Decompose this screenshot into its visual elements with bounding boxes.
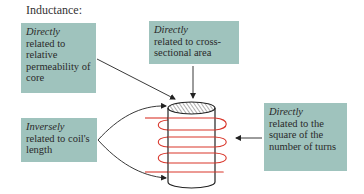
coil-winding [145,118,168,172]
permeability-arrow [97,59,175,99]
core-cylinder [168,102,215,188]
inductor-diagram [0,0,364,194]
length-arrow-top [98,106,166,140]
